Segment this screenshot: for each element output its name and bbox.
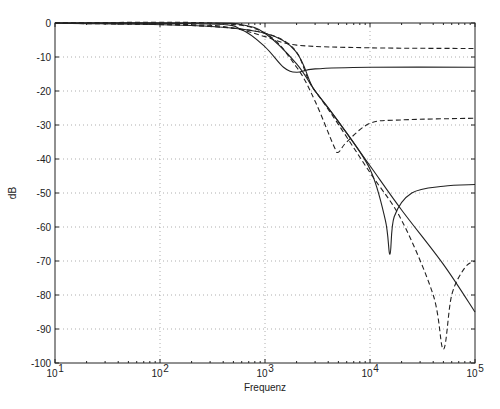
y-tick-label: -20	[37, 86, 52, 97]
y-tick-label: -80	[37, 290, 52, 301]
y-tick-label: -30	[37, 120, 52, 131]
y-tick-label: 0	[45, 18, 51, 29]
svg-text:3: 3	[268, 363, 274, 374]
x-axis-label: Frequenz	[244, 382, 286, 393]
y-axis-label: dB	[7, 187, 18, 200]
bode-plot: 0-10-20-30-40-50-60-70-80-90-10010110210…	[0, 0, 500, 409]
x-tick-label: 10	[151, 368, 163, 379]
svg-text:4: 4	[373, 363, 379, 374]
chart: 0-10-20-30-40-50-60-70-80-90-10010110210…	[0, 0, 500, 409]
x-tick-label: 10	[361, 368, 373, 379]
y-tick-label: -60	[37, 222, 52, 233]
y-tick-label: -100	[31, 358, 51, 369]
y-tick-label: -50	[37, 188, 52, 199]
y-tick-label: -90	[37, 324, 52, 335]
y-tick-label: -10	[37, 52, 52, 63]
x-tick-label: 10	[46, 368, 58, 379]
y-tick-label: -40	[37, 154, 52, 165]
svg-text:1: 1	[58, 363, 64, 374]
svg-text:5: 5	[478, 363, 484, 374]
svg-text:2: 2	[163, 363, 169, 374]
x-tick-label: 10	[256, 368, 268, 379]
x-tick-label: 10	[466, 368, 478, 379]
y-tick-label: -70	[37, 256, 52, 267]
